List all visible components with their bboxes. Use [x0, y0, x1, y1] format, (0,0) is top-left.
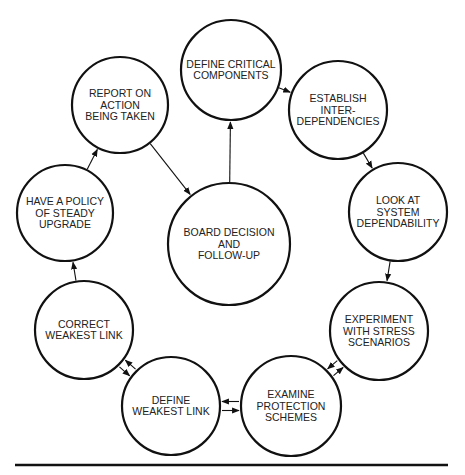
arrow-icon: [230, 122, 231, 182]
process-cycle-diagram: DEFINE CRITICALCOMPONENTSESTABLISHINTER-…: [0, 0, 465, 475]
node-examine-protection-schemes: EXAMINEPROTECTIONSCHEMES: [241, 356, 341, 456]
node-look-at-system-dependability: LOOK ATSYSTEMDEPENDABILITY: [349, 163, 447, 261]
arrow-icon: [333, 368, 343, 376]
node-label: INTER-: [321, 104, 357, 116]
node-label: ACTION: [100, 99, 140, 111]
arrow-icon: [279, 88, 290, 92]
node-label: BOARD DECISION: [183, 226, 274, 238]
node-label: FOLLOW-UP: [198, 249, 260, 261]
node-label: WEAKEST LINK: [45, 329, 122, 341]
node-label: SYSTEM: [376, 206, 419, 218]
node-label: HAVE A POLICY: [26, 195, 104, 207]
node-label: DEPENDENCIES: [297, 115, 380, 127]
node-label: DEFINE CRITICAL: [186, 58, 275, 70]
node-label: COMPONENTS: [193, 69, 268, 81]
node-label: SCHEMES: [265, 411, 317, 423]
node-label: CORRECT: [58, 318, 111, 330]
node-correct-weakest-link: CORRECTWEAKEST LINK: [35, 281, 133, 379]
node-label: WEAKEST LINK: [132, 405, 209, 417]
arrow-icon: [363, 153, 372, 168]
arrow-icon: [387, 261, 390, 280]
node-board-decision-and-follow-up: BOARD DECISIONANDFOLLOW-UP: [168, 183, 290, 305]
node-establish-interdependencies: ESTABLISHINTER-DEPENDENCIES: [289, 61, 387, 159]
node-define-critical-components: DEFINE CRITICALCOMPONENTS: [181, 20, 281, 120]
node-label: REPORT ON: [89, 87, 151, 99]
node-label: WITH STRESS: [343, 325, 415, 337]
node-label: PROTECTION: [257, 400, 326, 412]
arrow-icon: [150, 144, 190, 195]
node-label: SCENARIOS: [348, 336, 410, 348]
process-nodes: DEFINE CRITICALCOMPONENTSESTABLISHINTER-…: [17, 20, 447, 456]
node-label: BEING TAKEN: [85, 110, 155, 122]
arrow-icon: [87, 150, 97, 170]
node-label: LOOK AT: [376, 194, 421, 206]
node-label: UPGRADE: [39, 218, 91, 230]
arrow-icon: [328, 361, 338, 369]
node-label: EXAMINE: [267, 388, 314, 400]
node-define-weakest-link: DEFINEWEAKEST LINK: [122, 357, 220, 455]
node-experiment-with-stress-scenarios: EXPERIMENTWITH STRESSSCENARIOS: [330, 282, 428, 380]
arrow-icon: [119, 367, 129, 376]
node-label: ESTABLISH: [310, 92, 367, 104]
node-have-a-policy-of-steady-upgrade: HAVE A POLICYOF STEADYUPGRADE: [17, 165, 113, 261]
node-label: DEFINE: [152, 394, 191, 406]
arrow-icon: [73, 262, 76, 280]
node-report-on-action-being-taken: REPORT ONACTIONBEING TAKEN: [72, 57, 168, 153]
node-label: EXPERIMENT: [345, 313, 414, 325]
node-label: AND: [218, 238, 241, 250]
node-label: OF STEADY: [35, 207, 95, 219]
node-label: DEPENDABILITY: [357, 217, 440, 229]
arrow-icon: [125, 360, 135, 369]
